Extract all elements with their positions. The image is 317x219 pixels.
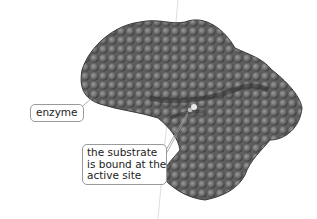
substrate-active-site-label: the substrate is bound at the active sit… [82,144,167,185]
diagram-canvas: enzyme the substrate is bound at the act… [0,0,317,219]
enzyme-label-text: enzyme [36,107,78,119]
substrate-label-line-3: active site [87,170,162,182]
enzyme-label: enzyme [30,104,84,122]
substrate-label-line-1: the substrate [87,147,162,159]
